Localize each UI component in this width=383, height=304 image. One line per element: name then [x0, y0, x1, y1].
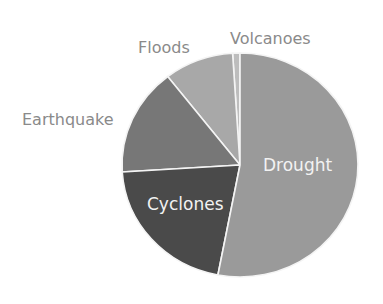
label-volcanoes: Volcanoes [230, 29, 311, 48]
pie-chart: Earthquake Floods Volcanoes Drought Cycl… [0, 0, 383, 304]
label-floods: Floods [138, 38, 190, 57]
label-cyclones: Cyclones [147, 194, 224, 214]
label-earthquake: Earthquake [22, 110, 114, 129]
label-drought: Drought [263, 155, 332, 175]
